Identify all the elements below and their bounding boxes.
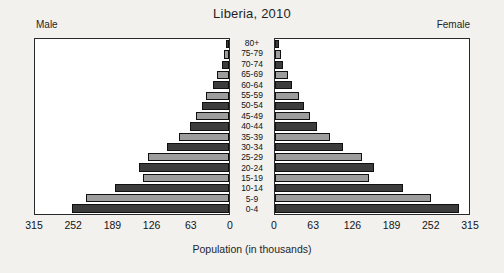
tick-female-63: 63 — [307, 219, 319, 231]
male-bar-30-34 — [167, 143, 229, 151]
male-bar-20-24 — [139, 163, 229, 171]
male-axis-header: Male — [36, 19, 58, 30]
tick-female-252: 252 — [422, 219, 440, 231]
female-bar-row — [275, 122, 469, 131]
tick-female-0: 0 — [271, 219, 277, 231]
male-bar-75-79 — [224, 50, 229, 58]
male-bar-row — [35, 143, 229, 152]
male-bar-0-4 — [72, 204, 229, 212]
age-group-label-70-74: 70-74 — [230, 60, 274, 69]
female-bar-0-4 — [275, 204, 459, 212]
age-group-label-20-24: 20-24 — [230, 164, 274, 173]
male-bar-45-49 — [196, 112, 229, 120]
female-panel — [274, 38, 470, 215]
x-axis-caption: Population (in thousands) — [0, 243, 504, 255]
age-group-label-45-49: 45-49 — [230, 112, 274, 121]
male-bar-70-74 — [222, 61, 229, 69]
female-bar-row — [275, 153, 469, 162]
tick-male-0: 0 — [227, 219, 233, 231]
female-bar-rows — [275, 39, 469, 214]
female-bar-70-74 — [275, 61, 283, 69]
male-bar-row — [35, 184, 229, 193]
female-bar-row — [275, 163, 469, 172]
female-bar-row — [275, 61, 469, 70]
female-bar-50-54 — [275, 102, 304, 110]
age-group-label-75-79: 75-79 — [230, 49, 274, 58]
female-bar-row — [275, 40, 469, 49]
male-bar-65-69 — [217, 71, 229, 79]
female-bar-row — [275, 132, 469, 141]
tick-male-252: 252 — [64, 219, 82, 231]
male-bar-rows — [35, 39, 229, 214]
age-group-label-40-44: 40-44 — [230, 122, 274, 131]
population-pyramid-plot: 80+75-7970-7465-6960-6455-5950-5445-4940… — [34, 38, 470, 215]
female-bar-45-49 — [275, 112, 310, 120]
male-bar-row — [35, 91, 229, 100]
female-bar-15-19 — [275, 174, 369, 182]
female-bar-80+ — [275, 40, 279, 48]
tick-female-189: 189 — [383, 219, 401, 231]
male-bar-row — [35, 122, 229, 131]
male-bar-25-29 — [148, 153, 229, 161]
female-bar-row — [275, 112, 469, 121]
age-group-label-60-64: 60-64 — [230, 81, 274, 90]
female-bar-75-79 — [275, 50, 281, 58]
female-bar-row — [275, 194, 469, 203]
male-bar-5-9 — [86, 194, 229, 202]
female-bar-row — [275, 173, 469, 182]
female-bar-row — [275, 184, 469, 193]
male-bar-10-14 — [115, 184, 229, 192]
male-bar-row — [35, 50, 229, 59]
male-bar-row — [35, 81, 229, 90]
tick-female-126: 126 — [344, 219, 362, 231]
female-bar-40-44 — [275, 122, 317, 130]
age-group-label-30-34: 30-34 — [230, 143, 274, 152]
male-bar-row — [35, 163, 229, 172]
male-bar-row — [35, 173, 229, 182]
age-group-label-10-14: 10-14 — [230, 184, 274, 193]
tick-female-315: 315 — [461, 219, 479, 231]
male-bar-row — [35, 132, 229, 141]
tick-male-126: 126 — [143, 219, 161, 231]
female-bar-10-14 — [275, 184, 403, 192]
male-bar-15-19 — [143, 174, 229, 182]
age-group-label-5-9: 5-9 — [230, 195, 274, 204]
female-bar-row — [275, 143, 469, 152]
female-axis-header: Female — [437, 19, 470, 30]
female-bar-30-34 — [275, 143, 343, 151]
male-bar-row — [35, 40, 229, 49]
female-bar-20-24 — [275, 163, 374, 171]
tick-male-189: 189 — [104, 219, 122, 231]
age-group-label-35-39: 35-39 — [230, 133, 274, 142]
male-bar-50-54 — [202, 102, 229, 110]
female-bar-35-39 — [275, 133, 330, 141]
male-bar-80+ — [226, 40, 229, 48]
female-bar-55-59 — [275, 92, 299, 100]
male-bar-row — [35, 153, 229, 162]
male-bar-row — [35, 61, 229, 70]
age-group-label-55-59: 55-59 — [230, 91, 274, 100]
tick-male-63: 63 — [185, 219, 197, 231]
female-bar-row — [275, 91, 469, 100]
age-group-label-25-29: 25-29 — [230, 153, 274, 162]
male-bar-row — [35, 71, 229, 80]
male-bar-row — [35, 102, 229, 111]
age-group-label-0-4: 0-4 — [230, 205, 274, 214]
male-bar-40-44 — [190, 122, 229, 130]
female-bar-60-64 — [275, 81, 292, 89]
female-bar-row — [275, 81, 469, 90]
tick-male-315: 315 — [25, 219, 43, 231]
age-group-label-65-69: 65-69 — [230, 70, 274, 79]
female-bar-row — [275, 102, 469, 111]
chart-title: Liberia, 2010 — [0, 6, 504, 21]
age-group-label-15-19: 15-19 — [230, 174, 274, 183]
female-bar-25-29 — [275, 153, 362, 161]
male-bar-row — [35, 112, 229, 121]
female-bar-65-69 — [275, 71, 288, 79]
male-bar-60-64 — [213, 81, 229, 89]
female-bar-5-9 — [275, 194, 431, 202]
female-bar-row — [275, 71, 469, 80]
female-bar-row — [275, 50, 469, 59]
age-group-label-50-54: 50-54 — [230, 101, 274, 110]
age-group-label-column: 80+75-7970-7465-6960-6455-5950-5445-4940… — [230, 38, 274, 215]
